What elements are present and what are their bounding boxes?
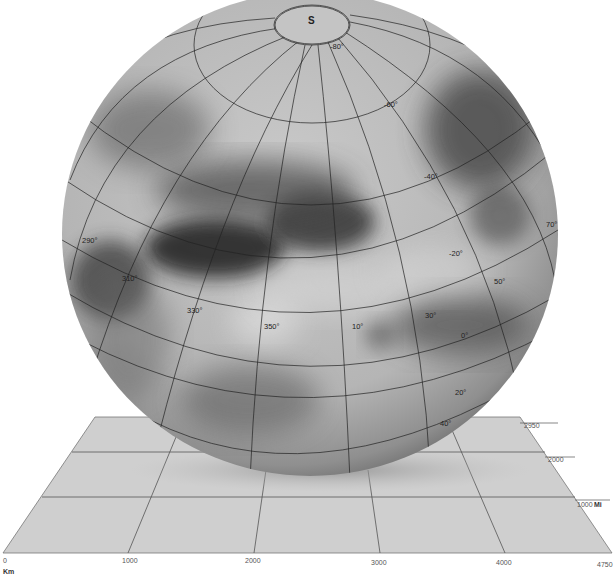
km-tick: 0 — [3, 557, 7, 564]
km-scale: 0 1000 2000 3000 4000 4750 Km — [3, 557, 613, 575]
km-unit: Km — [3, 568, 14, 575]
lon-label: 310° — [122, 274, 138, 283]
lon-label: 70° — [546, 220, 557, 229]
mi-tick: 2000 — [548, 456, 564, 463]
pole-label: S — [308, 15, 315, 26]
lat-label: -80° — [330, 42, 344, 51]
lon-label: 50° — [494, 277, 505, 286]
lat-label: 40° — [440, 419, 451, 428]
lon-label: 330° — [187, 306, 203, 315]
mi-tick: 2950 — [524, 422, 540, 429]
lat-label: -40° — [424, 172, 438, 181]
lat-label: -60° — [384, 100, 398, 109]
km-tick: 2000 — [245, 557, 261, 564]
km-tick: 4000 — [496, 559, 512, 566]
km-tick: 4750 — [597, 561, 613, 568]
planet-globe-map: S -80° -60° -40° -20° 0° 20° 40° 290° 31… — [0, 0, 616, 583]
km-tick: 3000 — [371, 559, 387, 566]
globe — [62, 0, 560, 480]
lon-label: 350° — [264, 322, 280, 331]
mi-unit: Mi — [594, 501, 602, 508]
lon-label: 30° — [425, 311, 436, 320]
mi-tick: 1000 — [577, 501, 593, 508]
lon-label: 290° — [82, 236, 98, 245]
lat-label: -20° — [449, 249, 463, 258]
km-tick: 1000 — [122, 557, 138, 564]
lat-label: 0° — [461, 331, 468, 340]
lon-label: 10° — [352, 322, 363, 331]
lat-label: 20° — [455, 388, 466, 397]
